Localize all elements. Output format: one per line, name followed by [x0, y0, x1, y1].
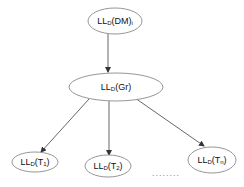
node-root-label: LLD(DM)i: [97, 16, 133, 26]
edge-mid-to-tn: [135, 98, 204, 146]
edge-mid-to-t1: [41, 99, 89, 152]
node-t2: LLD(T2): [85, 155, 131, 177]
node-mid-label: LLD(Gr): [101, 82, 131, 92]
node-mid: LLD(Gr): [69, 73, 163, 101]
node-root: LLD(DM)i: [88, 8, 142, 34]
tree-diagram: LLD(DM)i LLD(Gr) LLD(T1) LLD(T2) LLD(Tn)…: [0, 0, 244, 187]
node-t1: LLD(T1): [12, 152, 58, 172]
node-tn: LLD(Tn): [188, 147, 236, 173]
ellipsis-dots: ........: [152, 168, 180, 178]
